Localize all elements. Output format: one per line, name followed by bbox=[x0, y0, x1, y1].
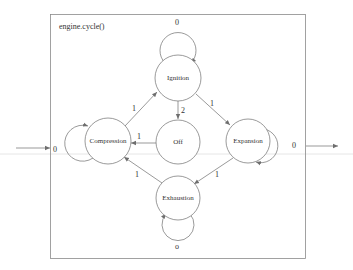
diagram-title: engine.cycle() bbox=[59, 22, 105, 31]
svg-text:0: 0 bbox=[175, 18, 179, 27]
state-node-off: Off bbox=[156, 120, 200, 164]
svg-text:Ignition: Ignition bbox=[167, 74, 190, 82]
edge-expansion-exhaustion: 1 bbox=[194, 158, 233, 184]
svg-text:0: 0 bbox=[292, 141, 296, 150]
state-node-exhaustion: Exhaustion bbox=[156, 176, 200, 220]
svg-text:Expansion: Expansion bbox=[233, 137, 263, 145]
svg-text:1: 1 bbox=[215, 170, 219, 179]
edge-ignition-expansion: 1 bbox=[196, 94, 230, 125]
svg-text:o: o bbox=[175, 242, 179, 251]
svg-text:1: 1 bbox=[132, 104, 136, 113]
state-diagram: engine.cycle() 0 0 0 o 1 1 2 1 1 1 bbox=[0, 0, 353, 270]
edge-off-compression: 1 bbox=[131, 132, 156, 143]
svg-text:0: 0 bbox=[53, 145, 57, 154]
svg-text:1: 1 bbox=[137, 132, 141, 141]
svg-text:Exhaustion: Exhaustion bbox=[162, 194, 194, 202]
state-node-compression: Compression bbox=[85, 118, 131, 164]
svg-text:Compression: Compression bbox=[90, 137, 127, 145]
svg-text:2: 2 bbox=[181, 106, 185, 115]
svg-text:1: 1 bbox=[210, 99, 214, 108]
edge-ignition-off: 2 bbox=[178, 101, 185, 119]
state-node-expansion: Expansion bbox=[226, 119, 270, 163]
edge-exhaustion-compression: 1 bbox=[124, 157, 162, 183]
svg-text:1: 1 bbox=[135, 170, 139, 179]
svg-text:Off: Off bbox=[173, 138, 183, 146]
state-node-ignition: Ignition bbox=[155, 55, 201, 101]
edge-compression-ignition: 1 bbox=[125, 92, 157, 126]
